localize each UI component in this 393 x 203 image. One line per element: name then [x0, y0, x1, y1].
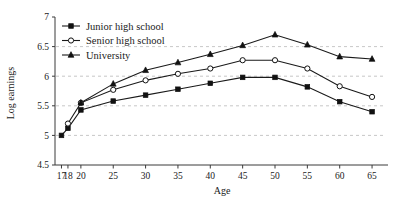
marker-open-circle	[143, 78, 148, 83]
chart-canvas: 4.555.566.57171820253035404550556065 Jun…	[0, 0, 393, 203]
x-tick-label: 40	[206, 171, 216, 181]
legend-item: Junior high school	[62, 21, 164, 32]
legend-item: Senior high school	[62, 35, 165, 46]
legend-label: Junior high school	[86, 21, 164, 32]
marker-open-circle	[305, 66, 310, 71]
marker-open-circle	[68, 38, 73, 43]
chart-figure: 4.555.566.57171820253035404550556065 Jun…	[0, 0, 393, 203]
marker-filled-square	[208, 81, 213, 86]
x-tick-label: 18	[63, 171, 73, 181]
marker-filled-square	[111, 99, 116, 104]
x-axis-title: Age	[214, 185, 231, 196]
legend-label: Senior high school	[86, 35, 165, 46]
series-0	[59, 75, 374, 138]
marker-filled-triangle	[272, 31, 278, 37]
x-tick-label: 55	[303, 171, 313, 181]
x-tick-label: 20	[76, 171, 86, 181]
x-tick-label: 50	[270, 171, 280, 181]
marker-filled-square	[143, 93, 148, 98]
y-tick-label: 5.5	[37, 101, 49, 111]
data-series-group	[59, 31, 375, 137]
x-tick-label: 45	[238, 171, 248, 181]
x-tick-label: 25	[108, 171, 118, 181]
marker-open-circle	[369, 94, 374, 99]
marker-filled-square	[176, 87, 181, 92]
marker-filled-square	[59, 133, 64, 138]
y-tick-label: 5	[44, 131, 49, 141]
marker-open-circle	[240, 58, 245, 63]
x-tick-label: 35	[173, 171, 183, 181]
y-tick-label: 6.5	[37, 42, 49, 52]
marker-open-circle	[111, 87, 116, 92]
marker-filled-square	[66, 126, 71, 131]
marker-filled-square	[69, 24, 74, 29]
y-tick-label: 7	[44, 12, 49, 22]
x-tick-label: 30	[141, 171, 151, 181]
marker-open-circle	[208, 66, 213, 71]
y-axis-title: Log earnings	[5, 67, 16, 120]
marker-open-circle	[175, 71, 180, 76]
marker-filled-square	[240, 75, 245, 80]
marker-open-circle	[272, 58, 277, 63]
y-tick-label: 6	[44, 72, 49, 82]
marker-filled-square	[305, 85, 310, 90]
marker-open-circle	[65, 121, 70, 126]
legend-item: University	[62, 50, 131, 61]
y-tick-label: 4.5	[37, 160, 49, 170]
series-line	[61, 77, 372, 135]
x-tick-label: 60	[335, 171, 345, 181]
marker-filled-square	[370, 109, 375, 114]
legend-label: University	[86, 50, 131, 61]
marker-filled-square	[79, 108, 84, 113]
series-1	[65, 58, 374, 127]
marker-filled-square	[337, 99, 342, 104]
x-tick-label: 65	[367, 171, 377, 181]
marker-filled-square	[273, 75, 278, 80]
chart-legend: Junior high schoolSenior high schoolUniv…	[62, 21, 165, 61]
marker-open-circle	[337, 84, 342, 89]
